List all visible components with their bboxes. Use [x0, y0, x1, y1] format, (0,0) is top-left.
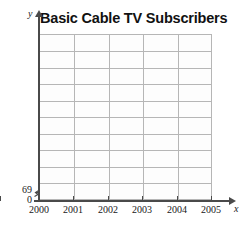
- y-axis-arrow-icon: [35, 10, 43, 17]
- gridline-vertical: [109, 35, 110, 199]
- gridline-horizontal: [40, 117, 211, 118]
- y-axis-name: y: [28, 8, 32, 19]
- gridline-horizontal: [40, 101, 211, 102]
- x-axis-label-2001: 2001: [53, 204, 93, 216]
- x-tick-2001: [73, 196, 74, 201]
- x-tick-2005: [211, 196, 212, 201]
- x-tick-2000: [39, 196, 40, 201]
- x-axis-line: [34, 200, 230, 202]
- gridline-horizontal: [40, 167, 211, 168]
- x-tick-2002: [108, 196, 109, 201]
- y-axis-line: [38, 16, 40, 201]
- x-tick-2003: [142, 196, 143, 201]
- x-axis-label-2003: 2003: [122, 204, 162, 216]
- gridline-horizontal: [40, 84, 211, 85]
- gridline-vertical: [143, 35, 144, 199]
- x-axis-label-2005: 2005: [191, 204, 231, 216]
- chart-title: Basic Cable TV Subscribers: [40, 8, 230, 28]
- gridline-horizontal: [40, 150, 211, 151]
- gridline-horizontal: [40, 51, 211, 52]
- x-tick-2001: [0, 196, 1, 201]
- gridline-vertical: [178, 35, 179, 199]
- y-tick-69: [35, 192, 40, 193]
- gridline-horizontal: [40, 68, 211, 69]
- gridline-horizontal: [40, 134, 211, 135]
- x-axis-name: x: [234, 203, 238, 214]
- chart-figure: Basic Cable TV Subscribers 69 0 2000 200…: [0, 0, 248, 226]
- plot-area: [39, 34, 212, 200]
- x-tick-2004: [177, 196, 178, 201]
- gridline-horizontal: [40, 183, 211, 184]
- gridline-vertical: [74, 35, 75, 199]
